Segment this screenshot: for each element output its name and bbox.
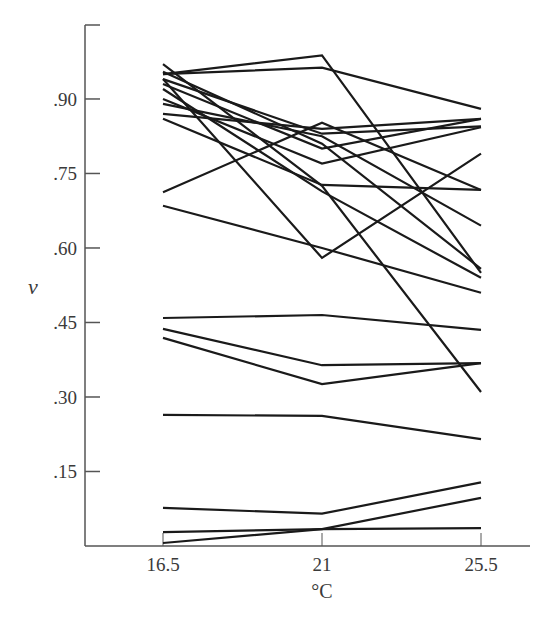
x-tick-label: 25.5 <box>464 554 497 575</box>
series-line-s15 <box>163 315 481 330</box>
series-line-s18 <box>163 415 481 439</box>
series-line-s7 <box>163 79 481 134</box>
y-ticks: .15.30.45.60.75.90 <box>53 89 100 483</box>
x-axis-label: °C <box>311 580 332 602</box>
series-line-s17 <box>163 338 481 384</box>
y-tick-label: .60 <box>53 238 77 259</box>
data-series <box>163 55 481 543</box>
series-line-s19 <box>163 482 481 513</box>
y-tick-label: .90 <box>53 89 77 110</box>
y-tick-label: .75 <box>53 163 77 184</box>
series-line-s6 <box>163 206 481 293</box>
y-tick-label: .15 <box>53 461 77 482</box>
y-tick-label: .45 <box>53 312 77 333</box>
y-tick-label: .30 <box>53 387 77 408</box>
series-line-s11 <box>163 114 481 129</box>
series-line-s16 <box>163 329 481 365</box>
line-chart: .15.30.45.60.75.90 16.52125.5 v °C <box>0 0 555 617</box>
y-axis-label: v <box>28 274 38 299</box>
axes <box>85 25 530 546</box>
x-tick-label: 21 <box>313 554 332 575</box>
x-tick-label: 16.5 <box>146 554 179 575</box>
